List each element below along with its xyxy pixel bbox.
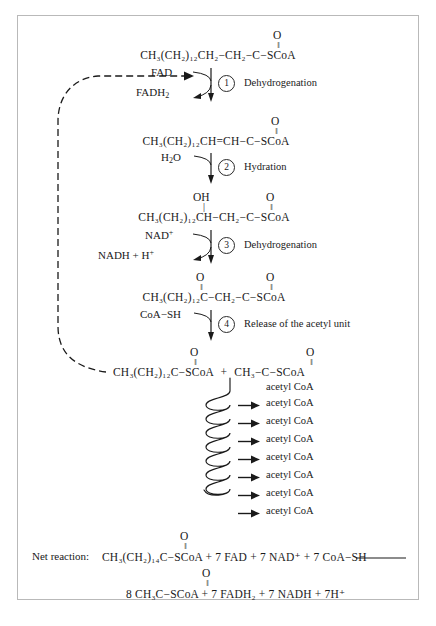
acetyl-coa-output-5: acetyl CoA	[266, 451, 314, 462]
acetyl-coa-arrow-3	[238, 419, 262, 428]
acetyl-coa-arrow-8	[238, 509, 262, 518]
acetyl-coa-output-2: acetyl CoA	[266, 397, 314, 408]
net-reaction-double-bond-right: ‖	[202, 580, 212, 586]
acetyl-coa-output-8: acetyl CoA	[266, 505, 314, 516]
acetyl-coa-arrow-4	[238, 437, 262, 446]
acetyl-coa-output-4: acetyl CoA	[266, 433, 314, 444]
figure-frame: O ‖ CH₃(CH₂)₁₂CH₂−CH₂−C−SCoA FAD FADH2 1…	[17, 15, 419, 600]
net-reaction-double-bond-left: ‖	[180, 543, 190, 549]
acetyl-coa-output-7: acetyl CoA	[266, 487, 314, 498]
net-reaction-products: 8 CH₃C−SCoA + 7 FADH₂ + 7 NADH + 7H⁺	[126, 587, 345, 601]
acetyl-coa-arrow-6	[238, 473, 262, 482]
acetyl-coa-output-1: acetyl CoA	[266, 381, 314, 392]
acetyl-coa-output-6: acetyl CoA	[266, 469, 314, 480]
acetyl-coa-arrow-2	[238, 401, 262, 410]
net-reaction-arrow	[356, 553, 410, 563]
acetyl-coa-arrow-7	[238, 491, 262, 500]
net-reaction-reactants: CH₃(CH₂)₁₄C−SCoA + 7 FAD + 7 NAD⁺ + 7 Co…	[102, 550, 367, 564]
net-reaction-label: Net reaction:	[32, 550, 89, 562]
acetyl-coa-output-3: acetyl CoA	[266, 415, 314, 426]
acetyl-coa-arrow-5	[238, 455, 262, 464]
